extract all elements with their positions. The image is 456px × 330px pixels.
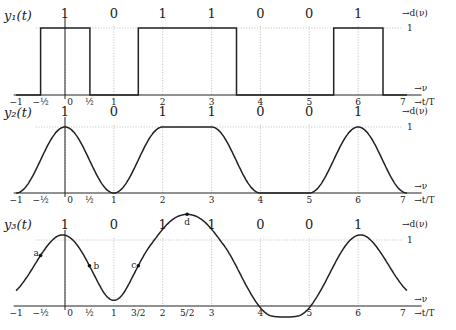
tick-label: 7 — [400, 308, 406, 318]
point-b — [88, 264, 92, 268]
d-label: →d(ν) — [402, 8, 428, 18]
tick-label: 1 — [111, 308, 117, 318]
bit-label: 1 — [61, 104, 69, 119]
point-a — [39, 254, 43, 258]
tick-label: 1 — [111, 195, 117, 205]
nu-label: →ν — [414, 294, 427, 304]
level-label: 1 — [407, 235, 413, 245]
bit-label: 1 — [354, 104, 362, 119]
tick-label: 0 — [67, 195, 73, 205]
tick-label: ½ — [85, 97, 94, 107]
tick-label: 5 — [306, 195, 312, 205]
bit-label: 1 — [61, 6, 69, 21]
point-label: b — [93, 261, 99, 271]
t-label: →t/T — [414, 308, 434, 318]
bit-label: 1 — [159, 104, 167, 119]
point-label: c — [131, 260, 136, 270]
signal-label: y₃(t) — [3, 217, 32, 232]
nu-label: →ν — [414, 83, 427, 93]
tick-label: 7 — [400, 195, 406, 205]
tick-label: ½ — [85, 308, 94, 318]
level-label: 1 — [407, 23, 413, 33]
panel-y1: y₁(t)1011001→d(ν)1→ν→t/T−1−½0½1234567 — [3, 6, 434, 107]
tick-label: 2 — [160, 308, 166, 318]
nu-label: →ν — [414, 181, 427, 191]
bit-label: 0 — [305, 6, 313, 21]
tick-label: 5/2 — [180, 308, 194, 318]
panel-y2: y₂(t)1011001→d(ν)1→ν→t/T−1−½0½1234567 — [3, 104, 434, 205]
bit-label: 1 — [159, 6, 167, 21]
tick-label: ½ — [85, 195, 94, 205]
tick-label: 0 — [67, 308, 73, 318]
tick-label: −½ — [32, 97, 49, 107]
signal-label: y₂(t) — [3, 105, 32, 120]
d-label: →d(ν) — [402, 219, 428, 229]
bit-label: 1 — [207, 104, 215, 119]
tick-label: 6 — [355, 195, 361, 205]
bit-label: 1 — [207, 6, 215, 21]
bit-label: 0 — [305, 217, 313, 232]
bit-label: 0 — [256, 6, 264, 21]
bit-label: 1 — [354, 217, 362, 232]
level-label: 1 — [407, 122, 413, 132]
bit-label: 0 — [110, 104, 118, 119]
tick-label: 3 — [209, 195, 215, 205]
panel-y3: y₃(t)1011001→d(ν)1→ν→t/T−1−½0½13/225/234… — [3, 212, 434, 318]
tick-label: −1 — [10, 308, 23, 318]
d-label: →d(ν) — [402, 106, 428, 116]
point-c — [136, 264, 140, 268]
tick-label: −1 — [10, 195, 23, 205]
bit-label: 0 — [256, 217, 264, 232]
tick-label: 4 — [258, 195, 264, 205]
point-d — [185, 212, 189, 216]
bit-label: 0 — [305, 104, 313, 119]
tick-label: 6 — [355, 308, 361, 318]
signal-label: y₁(t) — [3, 8, 32, 23]
t-label: →t/T — [414, 195, 434, 205]
bit-label: 1 — [61, 217, 69, 232]
bit-label: 1 — [354, 6, 362, 21]
tick-label: 2 — [160, 195, 166, 205]
signal-diagram: y₁(t)1011001→d(ν)1→ν→t/T−1−½0½1234567y₂(… — [0, 0, 456, 330]
tick-label: −½ — [32, 308, 49, 318]
tick-label: 3/2 — [131, 308, 145, 318]
point-label: a — [34, 248, 40, 258]
bit-label: 0 — [110, 217, 118, 232]
bit-label: 0 — [256, 104, 264, 119]
tick-label: 3 — [209, 308, 215, 318]
bit-label: 0 — [110, 6, 118, 21]
point-label: d — [184, 217, 190, 227]
tick-label: −½ — [32, 195, 49, 205]
